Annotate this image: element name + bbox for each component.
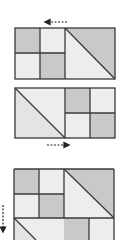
panel-1 [15,22,115,79]
panel-2 [15,88,115,145]
diagram-canvas [0,0,124,240]
panel-3 [3,169,114,240]
